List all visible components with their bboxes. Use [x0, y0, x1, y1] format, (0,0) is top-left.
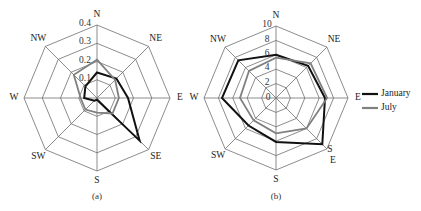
- direction-label-e: E: [355, 92, 361, 102]
- direction-label-ne: NE: [149, 33, 162, 43]
- radar-panel-b: 0246810NNEESESSWWNW: [190, 10, 362, 184]
- legend: January July: [362, 88, 411, 112]
- radar-panel-a: 0.10.20.30.4NNEESESSWWNW: [10, 9, 184, 185]
- tick-label-0.4: 0.4: [79, 18, 91, 28]
- direction-label-w: W: [10, 92, 19, 102]
- tick-label-2: 2: [265, 77, 270, 87]
- direction-label-se: SE: [150, 151, 161, 161]
- tick-label-8: 8: [265, 34, 270, 44]
- series-july: [240, 58, 327, 134]
- direction-label-ne: NE: [328, 34, 341, 44]
- direction-label-sw: SW: [31, 151, 45, 161]
- direction-label-w: W: [190, 92, 199, 102]
- direction-label-s: S: [273, 174, 278, 184]
- tick-label-0: 0: [266, 92, 271, 102]
- direction-label-n: N: [273, 10, 280, 20]
- tick-label-0.1: 0.1: [79, 73, 91, 83]
- subtitle-b: (b): [271, 191, 282, 201]
- subtitle-a: (a): [92, 191, 102, 201]
- direction-label-se: E: [330, 155, 336, 165]
- direction-label-se: S: [327, 144, 332, 154]
- direction-label-n: N: [94, 9, 101, 19]
- tick-label-4: 4: [265, 62, 270, 72]
- legend-label-january: January: [381, 88, 411, 98]
- tick-label-0.2: 0.2: [79, 55, 91, 65]
- tick-label-0.3: 0.3: [79, 36, 91, 46]
- direction-label-e: E: [177, 92, 183, 102]
- direction-label-sw: SW: [211, 150, 225, 160]
- tick-label-6: 6: [265, 48, 270, 58]
- direction-label-s: S: [94, 175, 99, 185]
- tick-label-10: 10: [262, 19, 272, 29]
- radar-charts: 0.10.20.30.4NNEESESSWWNW 0246810NNEESESS…: [0, 0, 421, 211]
- legend-label-july: July: [381, 102, 397, 112]
- direction-label-nw: NW: [30, 33, 46, 43]
- direction-label-nw: NW: [210, 34, 226, 44]
